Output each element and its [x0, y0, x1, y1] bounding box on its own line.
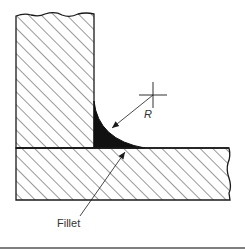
fillet-label: Fillet [57, 217, 80, 229]
vertical-member-section [16, 13, 94, 148]
fillet-diagram: R Fillet [0, 0, 245, 250]
radius-label: R [144, 108, 152, 120]
horizontal-member-section [16, 148, 231, 200]
horizontal-member [16, 148, 231, 200]
vertical-member [16, 13, 94, 148]
